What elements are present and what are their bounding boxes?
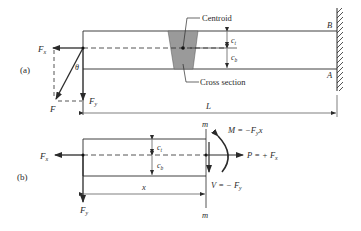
section-cut-mm: m m: [202, 119, 208, 220]
beam-diagram: (a) Centroid Cross section ct cb: [0, 0, 361, 231]
svg-text:P = + Fx: P = + Fx: [246, 150, 278, 161]
svg-text:Fx: Fx: [39, 151, 49, 162]
svg-text:V = − Fy: V = − Fy: [211, 180, 242, 191]
section-m-bottom: m: [202, 210, 208, 220]
x-dimension: x: [84, 182, 205, 194]
svg-text:Fy: Fy: [79, 205, 89, 216]
svg-text:cb: cb: [157, 161, 164, 171]
svg-text:ct: ct: [157, 143, 163, 153]
depth-dimension-b: ct cb: [152, 140, 164, 175]
section-m-top: m: [202, 119, 208, 129]
length-label: L: [205, 101, 211, 111]
fixed-wall: [337, 8, 343, 91]
depth-dimension-a: ct cb: [227, 32, 238, 68]
cross-section-label: Cross section: [200, 77, 246, 87]
internal-resultants: [204, 136, 243, 172]
svg-text:cb: cb: [231, 53, 238, 63]
svg-text:Fx: Fx: [37, 44, 47, 55]
part-b: (b) ct cb m m x: [17, 119, 278, 220]
svg-text:ct: ct: [231, 36, 237, 46]
beam-segment-b: [83, 139, 206, 176]
length-dimension: L: [84, 95, 337, 117]
part-a-label: (a): [20, 65, 30, 75]
moment-equation: M = −F: [227, 125, 257, 135]
svg-text:Fy: Fy: [88, 96, 98, 107]
axial-equation: P = + F: [246, 150, 276, 160]
point-b-label: B: [327, 20, 332, 30]
part-a: (a) Centroid Cross section ct cb: [20, 8, 343, 117]
force-vectors-b: [55, 154, 85, 203]
x-label: x: [141, 182, 146, 192]
force-vectors-a: [53, 47, 85, 102]
theta-label: θ: [75, 63, 79, 72]
centroid-label: Centroid: [202, 13, 232, 23]
f-label: F: [49, 104, 56, 114]
cross-section-shape: [168, 31, 198, 69]
svg-text:M = −Fyx: M = −Fyx: [227, 125, 263, 136]
point-a-label: A: [326, 70, 333, 80]
shear-equation: V = − F: [211, 180, 240, 190]
part-b-label: (b): [17, 172, 28, 182]
